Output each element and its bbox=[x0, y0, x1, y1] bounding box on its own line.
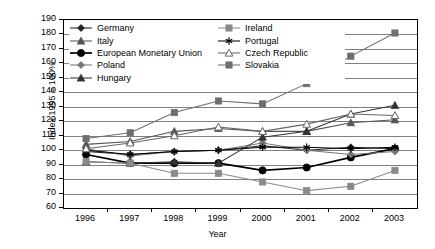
legend-item-label: Ireland bbox=[245, 23, 273, 33]
y-axis-tick-label: 170 bbox=[30, 43, 56, 52]
legend-column-right: IrelandPortugalCzech RepublicSlovakia bbox=[217, 22, 345, 72]
y-axis-tick-label: 150 bbox=[30, 72, 56, 81]
data-point bbox=[304, 188, 310, 194]
data-point bbox=[215, 98, 221, 104]
y-axis-tick-label: 140 bbox=[30, 86, 56, 95]
data-point bbox=[127, 160, 133, 166]
legend-marker-triangle-icon bbox=[69, 72, 93, 84]
legend-item-ireland[interactable]: Ireland bbox=[217, 22, 345, 34]
x-axis-tick-label: 2001 bbox=[283, 213, 329, 223]
chart-legend: GermanyItalyEuropean Monetary UnionPolan… bbox=[69, 22, 345, 84]
legend-item-label: Czech Republic bbox=[245, 48, 308, 58]
legend-item-label: Slovakia bbox=[245, 60, 279, 70]
legend-marker-square-icon bbox=[217, 59, 241, 71]
x-axis-tick-label: 2000 bbox=[239, 213, 285, 223]
x-axis-title: Year bbox=[0, 229, 435, 239]
y-axis-tick-label: 130 bbox=[30, 101, 56, 110]
data-point bbox=[215, 170, 221, 176]
y-axis-tick-label: 110 bbox=[30, 130, 56, 139]
legend-marker-diamond-icon bbox=[69, 22, 93, 34]
legend-marker-diamond-icon bbox=[69, 59, 93, 71]
chart-container: Index 1995 = 100% Year 60708090100110120… bbox=[0, 0, 435, 249]
legend-item-label: Germany bbox=[97, 23, 134, 33]
legend-item-italy[interactable]: Italy bbox=[69, 34, 217, 46]
data-point bbox=[127, 130, 133, 136]
data-point bbox=[391, 102, 399, 109]
legend-marker-triangle-open-icon bbox=[217, 47, 241, 59]
x-axis-tick-label: 1999 bbox=[194, 213, 240, 223]
legend-item-hungary[interactable]: Hungary bbox=[69, 72, 217, 84]
legend-marker-square-icon bbox=[217, 22, 241, 34]
data-point bbox=[83, 159, 89, 165]
y-axis-tick-label: 60 bbox=[30, 202, 56, 211]
data-point bbox=[215, 123, 223, 130]
y-axis-tick-label: 120 bbox=[30, 115, 56, 124]
y-axis-tick-label: 90 bbox=[30, 159, 56, 168]
data-point bbox=[259, 167, 266, 174]
data-point bbox=[83, 135, 89, 141]
x-axis-tick-label: 2002 bbox=[327, 213, 373, 223]
legend-item-germany[interactable]: Germany bbox=[69, 22, 217, 34]
legend-marker-triangle-icon bbox=[69, 35, 93, 47]
legend-item-label: Hungary bbox=[97, 73, 131, 83]
x-axis-tick-label: 1998 bbox=[150, 213, 196, 223]
data-point bbox=[259, 101, 265, 107]
legend-item-portugal[interactable]: Portugal bbox=[217, 34, 345, 46]
legend-marker-star-icon bbox=[217, 35, 241, 47]
y-axis-tick-label: 160 bbox=[30, 57, 56, 66]
legend-item-label: European Monetary Union bbox=[97, 48, 202, 58]
data-point bbox=[259, 179, 265, 185]
data-point bbox=[348, 183, 354, 189]
data-point bbox=[348, 53, 354, 59]
y-axis-tick-label: 190 bbox=[30, 14, 56, 23]
legend-item-european-monetary-union[interactable]: European Monetary Union bbox=[69, 47, 217, 59]
y-axis-tick-label: 100 bbox=[30, 144, 56, 153]
x-axis-tick-label: 2003 bbox=[371, 213, 417, 223]
y-axis-tick-label: 80 bbox=[30, 173, 56, 182]
legend-item-poland[interactable]: Poland bbox=[69, 59, 217, 71]
legend-item-czech-republic[interactable]: Czech Republic bbox=[217, 47, 345, 59]
x-axis-tick-label: 1997 bbox=[106, 213, 152, 223]
legend-item-label: Poland bbox=[97, 60, 125, 70]
x-axis-tick-label: 1996 bbox=[62, 213, 108, 223]
y-axis-tick-label: 70 bbox=[30, 188, 56, 197]
legend-item-label: Portugal bbox=[245, 36, 279, 46]
data-point bbox=[392, 167, 398, 173]
legend-column-left: GermanyItalyEuropean Monetary UnionPolan… bbox=[69, 22, 217, 84]
legend-item-label: Italy bbox=[97, 36, 114, 46]
data-point bbox=[171, 109, 177, 115]
legend-item-slovakia[interactable]: Slovakia bbox=[217, 59, 345, 71]
series-ireland bbox=[83, 159, 398, 194]
y-axis-tick-label: 180 bbox=[30, 28, 56, 37]
data-point bbox=[392, 30, 398, 36]
data-point bbox=[171, 170, 177, 176]
data-point bbox=[303, 164, 310, 171]
legend-marker-circle-icon bbox=[69, 47, 93, 59]
